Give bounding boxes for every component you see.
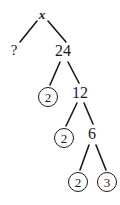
node-12: 12 [72, 85, 88, 101]
node-unknown-factor: ? [11, 43, 18, 58]
node-prime-2-first: 2 [38, 87, 58, 107]
node-root-x: x [39, 8, 46, 21]
node-24: 24 [55, 43, 71, 59]
edge-24-to-2a [50, 62, 60, 85]
node-6: 6 [88, 126, 96, 142]
edge-12-to-2b [66, 103, 77, 126]
edge-12-to-6 [84, 103, 93, 124]
edge-6-to-2c [80, 145, 89, 170]
edge-24-to-12 [68, 62, 79, 83]
node-prime-2-second: 2 [54, 128, 74, 148]
edge-root-to-unknown [20, 21, 37, 42]
edge-root-to-24 [48, 21, 66, 42]
node-prime-3: 3 [97, 172, 117, 192]
node-prime-2-third: 2 [68, 172, 88, 192]
factor-tree-diagram: x ? 24 2 12 2 6 2 3 [0, 0, 120, 205]
edge-6-to-3 [96, 145, 106, 170]
